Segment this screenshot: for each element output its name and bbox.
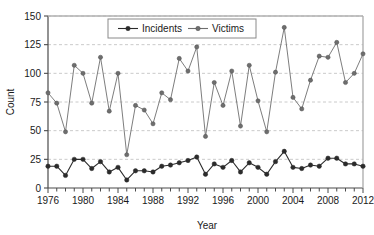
data-point <box>326 55 330 59</box>
data-point <box>212 80 216 84</box>
data-point <box>133 103 137 107</box>
data-point <box>230 69 234 73</box>
data-point <box>63 130 67 134</box>
data-point <box>142 169 146 173</box>
x-tick-label: 1992 <box>177 195 200 206</box>
data-point <box>247 161 251 165</box>
data-point <box>282 25 286 29</box>
y-tick-label: 125 <box>24 39 41 50</box>
legend-marker <box>126 26 130 30</box>
data-point <box>90 166 94 170</box>
legend-label: Incidents <box>142 23 182 34</box>
data-point <box>107 109 111 113</box>
data-point <box>160 91 164 95</box>
data-point <box>142 108 146 112</box>
x-tick-label: 2012 <box>352 195 374 206</box>
legend-label: Victims <box>212 23 244 34</box>
data-point <box>98 55 102 59</box>
data-point <box>335 40 339 44</box>
data-point <box>195 155 199 159</box>
x-axis-title: Year <box>197 220 218 231</box>
data-point <box>361 52 365 56</box>
data-point <box>81 157 85 161</box>
data-point <box>168 163 172 167</box>
data-point <box>81 71 85 75</box>
data-point <box>352 162 356 166</box>
data-point <box>273 70 277 74</box>
x-tick-label: 1996 <box>212 195 235 206</box>
data-point <box>46 164 50 168</box>
x-tick-label: 2008 <box>317 195 340 206</box>
data-point <box>317 54 321 58</box>
y-axis-title: Count <box>5 88 16 115</box>
data-point <box>203 172 207 176</box>
x-tick-label: 1988 <box>142 195 165 206</box>
data-point <box>256 165 260 169</box>
data-point <box>326 156 330 160</box>
data-point <box>125 153 129 157</box>
data-point <box>221 165 225 169</box>
data-point <box>116 71 120 75</box>
data-point <box>125 178 129 182</box>
line-chart: 1976198019841988199219962000200420082012… <box>0 0 374 235</box>
legend-marker <box>196 26 200 30</box>
data-point <box>133 169 137 173</box>
data-point <box>46 91 50 95</box>
data-point <box>247 63 251 67</box>
data-point <box>116 165 120 169</box>
data-point <box>317 164 321 168</box>
data-point <box>63 173 67 177</box>
data-point <box>335 156 339 160</box>
y-tick-label: 100 <box>24 68 41 79</box>
y-tick-label: 0 <box>35 183 41 194</box>
data-point <box>168 98 172 102</box>
x-tick-label: 1976 <box>37 195 60 206</box>
data-point <box>352 71 356 75</box>
data-point <box>195 45 199 49</box>
data-point <box>72 157 76 161</box>
data-point <box>343 80 347 84</box>
data-point <box>256 99 260 103</box>
data-point <box>230 158 234 162</box>
y-tick-label: 75 <box>30 97 42 108</box>
data-point <box>300 107 304 111</box>
data-point <box>343 162 347 166</box>
data-point <box>308 78 312 82</box>
x-tick-label: 2000 <box>247 195 270 206</box>
data-point <box>55 164 59 168</box>
data-point <box>238 170 242 174</box>
data-point <box>177 56 181 60</box>
data-point <box>203 134 207 138</box>
data-point <box>177 161 181 165</box>
data-point <box>291 165 295 169</box>
data-point <box>291 95 295 99</box>
data-point <box>151 170 155 174</box>
data-point <box>186 158 190 162</box>
x-tick-label: 1980 <box>72 195 95 206</box>
y-tick-label: 25 <box>30 154 42 165</box>
data-point <box>265 130 269 134</box>
data-point <box>212 162 216 166</box>
data-point <box>72 63 76 67</box>
data-point <box>98 159 102 163</box>
data-point <box>308 163 312 167</box>
data-point <box>90 101 94 105</box>
data-point <box>361 164 365 168</box>
data-point <box>160 164 164 168</box>
y-tick-label: 50 <box>30 125 42 136</box>
data-point <box>238 124 242 128</box>
data-point <box>273 159 277 163</box>
data-point <box>107 170 111 174</box>
x-tick-label: 2004 <box>282 195 305 206</box>
x-tick-label: 1984 <box>107 195 130 206</box>
data-point <box>55 101 59 105</box>
data-point <box>151 122 155 126</box>
data-point <box>186 69 190 73</box>
data-point <box>300 166 304 170</box>
y-tick-label: 150 <box>24 11 41 22</box>
data-point <box>221 103 225 107</box>
chart-legend: IncidentsVictims <box>108 19 256 38</box>
data-point <box>265 172 269 176</box>
data-point <box>282 149 286 153</box>
chart-container: 1976198019841988199219962000200420082012… <box>0 0 374 235</box>
